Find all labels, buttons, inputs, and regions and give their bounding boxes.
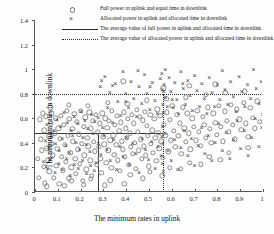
data-point [148,84,153,89]
data-point [185,153,190,158]
data-point [140,176,145,181]
data-point [167,117,172,122]
data-point [160,123,165,128]
data-point [196,142,201,147]
data-point [224,118,229,123]
data-point [259,125,262,130]
data-point [234,108,239,113]
data-point [140,135,145,140]
data-point [60,136,65,141]
data-point [197,103,202,108]
data-point [64,156,69,161]
data-point [178,144,183,149]
data-point [67,149,72,154]
data-point [189,135,194,140]
data-point [61,183,66,188]
data-point [130,141,135,146]
data-point [198,162,203,167]
data-point [136,170,141,175]
data-point [84,170,89,175]
data-point [175,166,180,171]
x-tick-label: 0.7 [190,195,198,202]
data-point [246,145,251,150]
data-point [216,121,221,126]
legend-label: Full power in uplink and equal time in d… [100,5,207,11]
data-point [257,100,262,105]
data-point [228,78,233,83]
data-point [170,105,175,110]
x-tick-label: 0.2 [76,195,84,202]
data-point [74,139,79,144]
data-point [85,103,90,108]
data-point [222,108,227,113]
data-point [121,78,126,83]
data-point [254,86,259,91]
data-point [196,129,201,134]
data-point [242,104,247,109]
plot-canvas [35,20,262,191]
data-point [147,169,152,174]
data-point [99,77,104,82]
data-point [108,165,113,170]
y-tick-label: 0.4 [0,139,28,146]
data-point [152,97,157,102]
x-tick [81,189,82,192]
data-point [190,116,195,121]
x-tick-label: 0 [32,195,35,202]
data-point [167,75,172,80]
data-point [58,123,63,128]
data-point [160,173,165,178]
data-point [134,107,139,112]
data-point [107,90,112,95]
data-point [92,168,97,173]
data-point [131,121,136,126]
data-point [249,134,254,139]
data-point [121,154,126,159]
data-point [206,132,211,137]
data-point [202,150,207,155]
data-point [144,98,149,103]
data-point [214,132,219,137]
data-point [76,166,81,171]
y-tick-label: 0.8 [0,90,28,97]
data-point [122,181,127,186]
data-point [235,118,240,123]
data-point [108,178,113,183]
data-point [147,106,152,111]
data-point [56,147,61,152]
y-tick [32,20,35,21]
data-point [167,165,172,170]
data-point [131,95,136,100]
data-point [109,108,114,113]
data-point [81,182,86,187]
data-point [195,108,200,113]
x-tick [195,189,196,192]
y-tick [32,94,35,95]
data-point [176,111,181,116]
data-point [161,110,166,115]
data-point [152,165,157,170]
data-point [178,68,183,73]
data-point [202,95,207,100]
y-tick [32,192,35,193]
data-point [252,126,257,131]
data-point [133,150,138,155]
y-tick [32,69,35,70]
y-axis-title: The minimum rates in downlink [45,51,54,191]
data-point [115,99,120,104]
x-tick [126,189,127,192]
x-tick-label: 0.8 [212,195,220,202]
data-point [139,101,144,106]
data-point [95,130,100,135]
data-point [105,146,110,151]
data-point [173,144,178,149]
data-point [239,89,244,94]
data-point [87,148,92,153]
data-point [94,159,99,164]
x-tick [103,189,104,192]
data-point [209,90,214,95]
data-point [171,128,176,133]
data-point [220,68,225,73]
data-point [154,158,159,163]
y-tick-label: 1.2 [0,41,28,48]
